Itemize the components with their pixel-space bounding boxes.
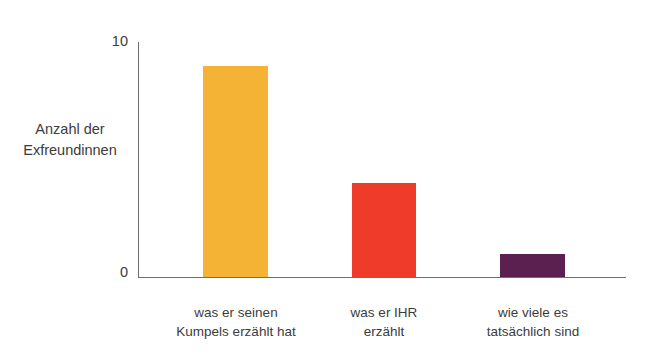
x-category-label-1: was er IHR erzählt (316, 303, 452, 341)
y-tick-label-0: 0 (94, 264, 128, 280)
y-axis-title: Anzahl der Exfreundinnen (14, 119, 126, 161)
bar-was-er-seinen-kumpels-erzaehlt-hat (203, 66, 268, 278)
x-axis-line (138, 277, 626, 278)
bar-wie-viele-es-tatsaechlich-sind (500, 254, 565, 278)
x-category-label-0: was er seinen Kumpels erzählt hat (152, 303, 320, 341)
y-axis-line (138, 42, 139, 278)
y-tick-label-10: 10 (94, 33, 128, 49)
bar-was-er-ihr-erzaehlt (352, 183, 416, 277)
x-category-label-2: wie viele es tatsächlich sind (445, 303, 621, 341)
bar-chart: Anzahl der Exfreundinnen 10 0 was er sei… (0, 0, 658, 361)
